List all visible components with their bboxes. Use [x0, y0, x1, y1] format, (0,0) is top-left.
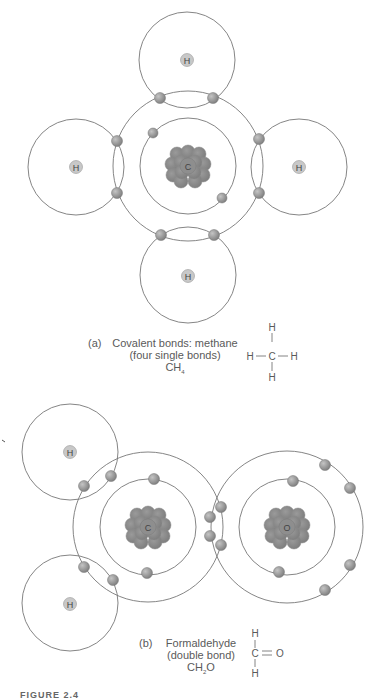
- formaldehyde-atom-h-lower: H: [67, 600, 74, 610]
- formaldehyde-electrons: [79, 460, 356, 596]
- formaldehyde-hydrogen-nuclei: [64, 446, 77, 611]
- formaldehyde-struct-c: C: [251, 648, 258, 659]
- panel-b-formula: CH2O: [164, 661, 238, 678]
- methane-atom-h-left: H: [73, 163, 80, 173]
- panel-a-formula: CH4: [110, 361, 240, 378]
- panel-b-title-line1: Formaldehyde: [164, 637, 238, 649]
- panel-a-title-line1: Covalent bonds: methane: [110, 337, 240, 349]
- formaldehyde-atom-c: C: [145, 523, 152, 533]
- methane-struct-h-right: H: [290, 351, 297, 362]
- formaldehyde-atom-h-upper: H: [67, 448, 74, 458]
- panel-b-letter: (b): [139, 637, 152, 649]
- formaldehyde-struct-o: O: [276, 648, 284, 659]
- formaldehyde-diagram: [22, 404, 363, 651]
- methane-struct-h-bottom: H: [268, 372, 275, 383]
- formaldehyde-atom-o: O: [283, 523, 290, 533]
- stray-mark: [2, 440, 5, 442]
- figure-label: FIGURE 2.4: [20, 690, 79, 699]
- methane-atom-c: C: [185, 162, 192, 172]
- panel-a-letter: (a): [88, 337, 101, 349]
- methane-atom-h-right: H: [296, 163, 303, 173]
- formaldehyde-struct-h-bottom: H: [251, 668, 258, 679]
- methane-struct-c: C: [268, 351, 275, 362]
- methane-struct-h-top: H: [268, 322, 275, 333]
- panel-b-caption: Formaldehyde (double bond) CH2O: [164, 637, 238, 678]
- methane-atom-h-top: H: [184, 56, 191, 66]
- panel-b-title-line2: (double bond): [164, 649, 238, 661]
- methane-atom-h-bottom: H: [185, 272, 192, 282]
- panel-a-title-line2: (four single bonds): [110, 349, 240, 361]
- formaldehyde-struct-h-top: H: [251, 628, 258, 639]
- methane-struct-h-left: H: [246, 351, 253, 362]
- panel-a-caption: Covalent bonds: methane (four single bon…: [110, 337, 240, 378]
